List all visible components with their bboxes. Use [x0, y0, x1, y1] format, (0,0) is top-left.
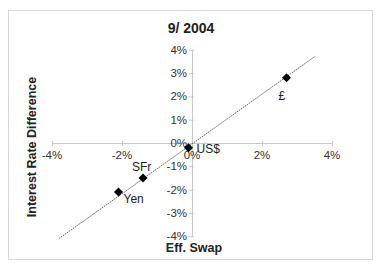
y-tick-label: -3% [167, 207, 187, 219]
x-tick-label: -2% [112, 149, 132, 161]
x-tick-label: 4% [324, 149, 341, 161]
chart-title: 9/ 2004 [168, 20, 215, 36]
chart-frame [9, 11, 373, 260]
y-tick-label: 2% [170, 90, 187, 102]
x-tick-label: -4% [42, 149, 62, 161]
y-tick-label: -2% [167, 184, 187, 196]
point-label: Yen [124, 192, 144, 206]
x-tick-label: 2% [254, 149, 271, 161]
scatter-chart: 9/ 2004 -4%-2%0%2%4% 4%3%2%1%0%-1%-2%-3%… [0, 0, 381, 268]
point-label: SFr [132, 160, 151, 174]
point-label: US$ [197, 142, 221, 156]
y-tick-label: 4% [170, 44, 187, 56]
point-label: £ [279, 89, 286, 103]
y-tick-label: 3% [170, 67, 187, 79]
y-axis-title: Interest Rate Difference [25, 77, 39, 217]
y-tick-label: -1% [167, 160, 187, 172]
y-tick-label: 1% [170, 114, 187, 126]
x-axis-title: Eff. Swap [166, 241, 223, 255]
